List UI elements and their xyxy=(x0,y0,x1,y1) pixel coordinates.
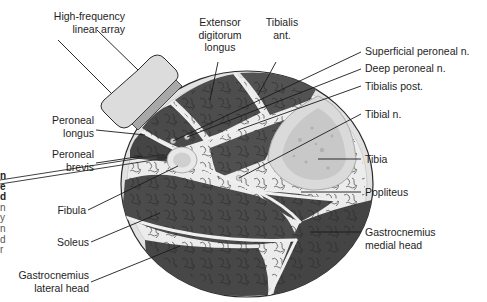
anatomy-figure: High-frequencylinear array Extensordigit… xyxy=(0,0,487,302)
label-tibialis-ant: Tibialisant. xyxy=(258,16,306,41)
label-tibialis-post: Tibialis post. xyxy=(365,80,423,93)
label-extensor-digitorum-longus: Extensordigitorumlongus xyxy=(190,16,250,54)
label-peroneal-brevis: Peronealbrevis xyxy=(40,148,94,173)
label-soleus: Soleus xyxy=(40,236,89,249)
label-high-frequency-linear-array: High-frequencylinear array xyxy=(30,10,125,35)
label-superficial-peroneal-n: Superficial peroneal n. xyxy=(365,45,469,58)
label-popliteus: Popliteus xyxy=(365,186,408,199)
label-peroneal-longus: Peroneallongus xyxy=(40,114,94,139)
label-fibula: Fibula xyxy=(40,204,86,217)
label-gastrocnemius-lateral-head: Gastrocnemiuslateral head xyxy=(10,269,89,294)
label-gastrocnemius-medial-head: Gastrocnemiusmedial head xyxy=(365,226,436,251)
label-tibia: Tibia xyxy=(365,153,387,166)
cropped-caption-fragment: n e d n y n d r xyxy=(0,171,9,256)
label-tibial-n: Tibial n. xyxy=(365,108,401,121)
label-deep-peroneal-n: Deep peroneal n. xyxy=(365,62,446,75)
